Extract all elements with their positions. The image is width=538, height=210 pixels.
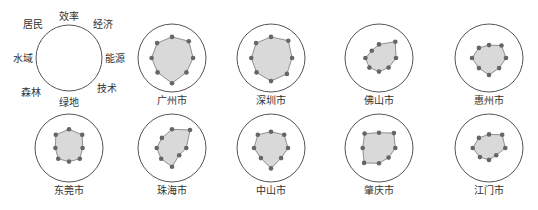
radar-point xyxy=(56,157,61,162)
axis-label-forest: 森林 xyxy=(21,86,41,98)
radar-point xyxy=(80,146,85,151)
radar-point xyxy=(470,146,475,151)
city-label: 东莞市 xyxy=(54,184,84,196)
city-label: 惠州市 xyxy=(474,94,504,106)
radar-point xyxy=(285,72,290,77)
radar-point xyxy=(177,153,182,158)
city-radar: 佛山市 xyxy=(345,24,413,106)
city-radars: 广州市深圳市佛山市惠州市东莞市珠海市中山市肇庆市江门市 xyxy=(35,24,523,196)
radar-point xyxy=(259,156,264,161)
radar-point xyxy=(269,35,274,40)
radar-point xyxy=(184,146,189,151)
city-label: 肇庆市 xyxy=(364,184,394,196)
radar-point xyxy=(500,133,505,138)
axis-label-economy: 经济 xyxy=(93,18,113,30)
radar-polygon xyxy=(55,129,82,161)
city-label: 佛山市 xyxy=(364,94,394,106)
radar-polygon xyxy=(472,45,506,75)
city-radar: 东莞市 xyxy=(35,114,103,196)
radar-point xyxy=(249,56,254,61)
radar-point xyxy=(477,136,482,141)
radar-point xyxy=(191,56,196,61)
radar-point xyxy=(154,146,159,151)
radar-point xyxy=(269,129,274,134)
radar-point xyxy=(269,79,274,84)
axis-label-energy: 能源 xyxy=(105,52,125,64)
radar-point xyxy=(362,161,367,166)
axis-legend: 效率 经济 能源 技术 绿地 森林 水域 居民 xyxy=(13,10,125,108)
radar-point xyxy=(386,155,391,160)
radar-point xyxy=(155,70,160,75)
axis-label-water: 水域 xyxy=(13,52,33,64)
radar-point xyxy=(497,66,502,71)
radar-point xyxy=(377,161,382,166)
radar-point xyxy=(377,69,382,74)
radar-point xyxy=(470,56,475,61)
radar-point xyxy=(503,146,508,151)
radar-small-multiples: 效率 经济 能源 技术 绿地 森林 水域 居民 广州市深圳市佛山市惠州市东莞市珠… xyxy=(0,0,538,210)
radar-point xyxy=(499,43,504,48)
city-label: 广州市 xyxy=(157,94,187,106)
radar-point xyxy=(170,81,175,86)
radar-point xyxy=(477,66,482,71)
axis-label-efficiency: 效率 xyxy=(59,10,79,22)
radar-point xyxy=(160,136,165,141)
radar-point xyxy=(504,56,509,61)
city-radar: 惠州市 xyxy=(455,24,523,106)
radar-point xyxy=(170,127,175,132)
radar-point xyxy=(487,43,492,48)
city-radar: 广州市 xyxy=(138,24,206,106)
radar-point xyxy=(393,39,398,44)
radar-point xyxy=(54,133,59,138)
radar-point xyxy=(477,46,482,51)
radar-point xyxy=(155,41,160,46)
city-radar: 珠海市 xyxy=(138,114,206,196)
radar-point xyxy=(377,130,382,135)
radar-point xyxy=(78,157,83,162)
radar-point xyxy=(255,133,260,138)
city-radar: 深圳市 xyxy=(237,24,305,106)
radar-point xyxy=(393,146,398,151)
radar-point xyxy=(159,157,164,162)
radar-point xyxy=(487,158,492,163)
radar-point xyxy=(487,73,492,78)
radar-point xyxy=(170,164,175,169)
radar-point xyxy=(392,131,397,136)
radar-point xyxy=(370,49,375,54)
axis-label-greenland: 绿地 xyxy=(59,96,79,108)
radar-point xyxy=(362,131,367,136)
radar-point xyxy=(377,42,382,47)
radar-point xyxy=(67,159,72,164)
radar-point xyxy=(494,153,499,158)
radar-point xyxy=(53,146,58,151)
radar-point xyxy=(290,56,295,61)
radar-point xyxy=(149,56,154,61)
radar-point xyxy=(363,56,368,61)
radar-point xyxy=(360,146,365,151)
city-label: 中山市 xyxy=(256,184,286,196)
radar-point xyxy=(286,38,291,43)
city-radar: 肇庆市 xyxy=(345,114,413,196)
city-label: 深圳市 xyxy=(256,94,286,106)
radar-point xyxy=(279,156,284,161)
radar-point xyxy=(282,133,287,138)
legend-circle xyxy=(36,25,102,91)
city-label: 江门市 xyxy=(474,184,504,196)
radar-point xyxy=(184,70,189,75)
radar-point xyxy=(478,155,483,160)
radar-point xyxy=(80,133,85,138)
radar-point xyxy=(487,132,492,137)
radar-point xyxy=(67,127,72,132)
radar-point xyxy=(254,70,259,75)
city-radar: 江门市 xyxy=(455,114,523,196)
radar-point xyxy=(394,56,399,61)
radar-point xyxy=(188,128,193,133)
radar-point xyxy=(286,146,291,151)
city-radar: 中山市 xyxy=(237,114,305,196)
axis-label-technology: 技术 xyxy=(97,82,117,94)
radar-point xyxy=(170,35,175,40)
radar-point xyxy=(254,41,259,46)
axis-label-residents: 居民 xyxy=(23,19,43,30)
chart-canvas: 效率 经济 能源 技术 绿地 森林 水域 居民 广州市深圳市佛山市惠州市东莞市珠… xyxy=(0,0,538,210)
city-label: 珠海市 xyxy=(157,184,187,196)
